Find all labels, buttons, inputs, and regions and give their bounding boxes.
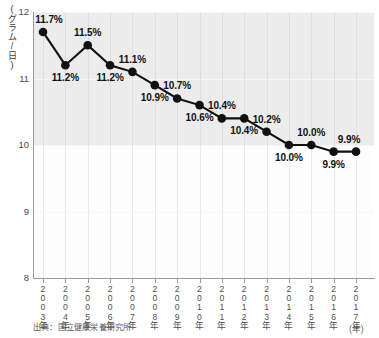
gridline-x-2007 [132,12,133,278]
chart-root: (グラム/日) 89101112 2 0 0 3 年2 0 0 4 年2 0 0… [0,0,379,338]
gridline-x-2012 [244,12,245,278]
value-label-2009: 10.7% [163,80,191,91]
x-tick-label-2013: 2 0 1 3 年 [260,285,274,331]
gridline-x-2015 [311,12,312,278]
x-tick-label-2009: 2 0 0 9 年 [170,285,184,331]
gridline-x-2010 [200,12,201,278]
x-tick-2015 [311,279,312,283]
value-label-2010: 10.6% [186,112,214,123]
gridline-y-11 [33,79,374,80]
value-label-2016: 9.9% [322,159,344,170]
gridline-x-2013 [267,12,268,278]
value-label-2015: 10.0% [297,127,325,138]
x-tick-2008 [155,279,156,283]
value-label-2007: 11.1% [119,54,146,65]
x-tick-2017 [356,279,357,283]
x-tick-2010 [200,279,201,283]
x-tick-2009 [177,279,178,283]
x-tick-label-2012: 2 0 1 2 年 [237,285,251,331]
y-tick-label-11: 11 [5,73,29,84]
x-tick-2013 [267,279,268,283]
gridline-y-12 [33,12,374,13]
source-note: 出典：国立健康栄養研究所 [33,320,131,332]
x-tick-2011 [222,279,223,283]
y-tick-label-8: 8 [5,272,29,283]
gridline-x-2005 [88,12,89,278]
gridline-x-2004 [65,12,66,278]
x-tick-2005 [88,279,89,283]
value-label-2013: 10.2% [253,114,281,125]
y-tick-label-9: 9 [5,206,29,217]
y-tick-label-12: 12 [5,6,29,17]
x-tick-2003 [43,279,44,283]
gridline-x-2003 [43,12,44,278]
x-tick-label-2011: 2 0 1 1 年 [215,285,229,331]
plot-area [33,12,374,278]
value-label-2014: 10.0% [275,152,303,163]
gridline-x-2011 [222,12,223,278]
x-axis-line [33,278,375,279]
value-label-2008: 10.9% [141,92,169,103]
value-label-2005: 11.5% [74,27,101,38]
x-tick-2004 [65,279,66,283]
y-tick-label-10: 10 [5,139,29,150]
value-label-2003: 11.7% [35,14,62,25]
x-tick-2012 [244,279,245,283]
x-axis-unit-label: (年) [349,322,364,334]
value-label-2012: 10.4% [230,125,258,136]
x-tick-label-2008: 2 0 0 8 年 [148,285,162,331]
value-label-2006: 11.2% [96,72,123,83]
gridline-x-2014 [289,12,290,278]
gridline-x-2006 [110,12,111,278]
value-label-2011: 10.4% [208,100,236,111]
x-tick-label-2014: 2 0 1 4 年 [282,285,296,331]
x-tick-label-2015: 2 0 1 5 年 [304,285,318,331]
gridline-x-2009 [177,12,178,278]
value-label-2004: 11.2% [52,72,79,83]
gridline-x-2016 [334,12,335,278]
x-tick-2006 [110,279,111,283]
x-tick-2014 [289,279,290,283]
value-label-2017: 9.9% [338,134,360,145]
x-tick-label-2016: 2 0 1 6 年 [327,285,341,331]
gridline-x-2008 [155,12,156,278]
x-tick-2007 [132,279,133,283]
y-axis-line [33,12,34,279]
gridline-x-2017 [356,12,357,278]
gridline-y-9 [33,212,374,213]
x-tick-label-2010: 2 0 1 0 年 [193,285,207,331]
gridline-y-10 [33,145,374,146]
x-tick-2016 [334,279,335,283]
